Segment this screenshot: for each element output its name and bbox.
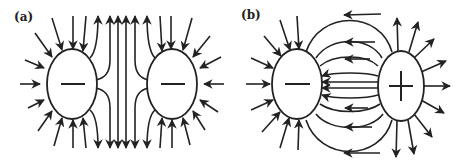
panel-a-central-field-lines	[96, 16, 148, 148]
panel-a	[20, 16, 224, 148]
panel-a-left-charge	[47, 49, 97, 119]
panel-b-negative-charge	[272, 49, 322, 119]
panel-b-positive-charge	[378, 51, 424, 121]
field-diagram	[0, 0, 467, 167]
panel-b	[246, 14, 450, 157]
panel-a-right-charge	[147, 49, 197, 119]
